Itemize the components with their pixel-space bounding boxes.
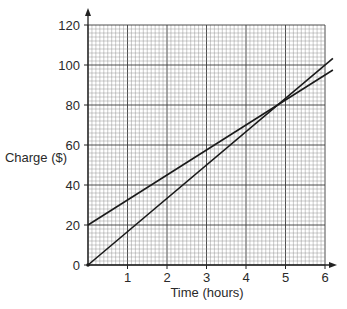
grid bbox=[88, 25, 325, 265]
y-axis-label: Charge ($) bbox=[5, 150, 67, 165]
x-tick-label: 5 bbox=[282, 270, 289, 285]
x-tick-label: 1 bbox=[124, 270, 131, 285]
y-tick-label: 80 bbox=[66, 98, 80, 113]
x-tick-label: 3 bbox=[203, 270, 210, 285]
y-tick-label: 120 bbox=[58, 18, 80, 33]
series bbox=[86, 58, 333, 266]
origin-point bbox=[86, 263, 90, 267]
x-tick-label: 6 bbox=[321, 270, 328, 285]
x-axis-label: Time (hours) bbox=[170, 285, 243, 300]
y-axis-arrow bbox=[85, 8, 91, 16]
y-tick-label: 40 bbox=[66, 178, 80, 193]
x-tick-label: 4 bbox=[242, 270, 249, 285]
chart: 123456020406080100120 Time (hours) Charg… bbox=[0, 0, 347, 309]
y-tick-label: 100 bbox=[58, 58, 80, 73]
x-axis-arrow bbox=[329, 262, 337, 268]
y-tick-label: 0 bbox=[73, 258, 80, 273]
y-tick-label: 60 bbox=[66, 138, 80, 153]
y-tick-label: 20 bbox=[66, 218, 80, 233]
x-tick-label: 2 bbox=[163, 270, 170, 285]
